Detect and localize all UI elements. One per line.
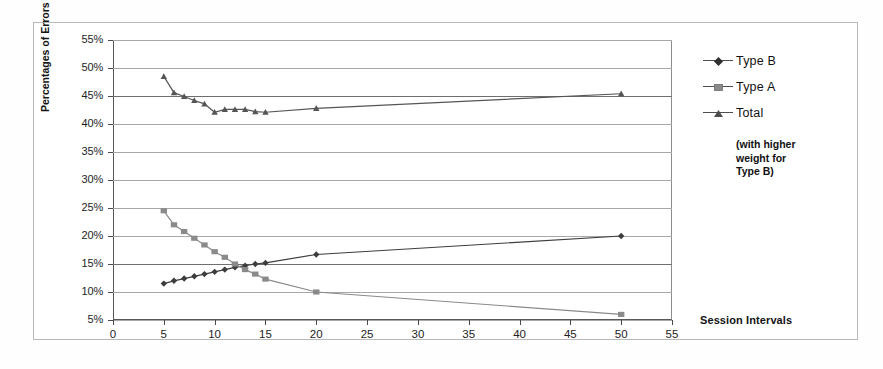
- legend-note-line-3: Type B): [736, 165, 853, 179]
- y-tick-label: 55%: [57, 33, 103, 45]
- y-tick-label: 40%: [57, 117, 103, 129]
- data-point-triangle: [171, 89, 177, 95]
- series-line: [164, 76, 621, 112]
- data-point-diamond: [313, 251, 319, 257]
- x-tick-mark: [316, 320, 317, 325]
- x-tick-mark: [520, 320, 521, 325]
- data-point-square: [201, 242, 207, 247]
- series-total: [161, 73, 625, 115]
- plot-area: 5%10%15%20%25%30%35%40%45%50%55% 0510152…: [113, 40, 672, 320]
- data-point-diamond: [201, 271, 207, 277]
- data-point-square: [211, 249, 217, 254]
- x-tick-label: 50: [615, 328, 628, 340]
- square-marker-icon: [703, 81, 733, 93]
- x-tick-label: 25: [361, 328, 374, 340]
- y-tick-label: 10%: [57, 285, 103, 297]
- x-tick-label: 5: [161, 328, 167, 340]
- series-layer: [113, 40, 672, 320]
- x-tick-mark: [215, 320, 216, 325]
- x-tick-mark: [570, 320, 571, 325]
- legend-label-total: Total: [736, 106, 763, 120]
- data-point-diamond: [161, 280, 167, 286]
- x-tick-mark: [418, 320, 419, 325]
- x-tick-mark: [469, 320, 470, 325]
- data-point-diamond: [618, 233, 624, 239]
- legend-note-line-1: (with higher: [736, 138, 853, 152]
- data-point-diamond: [262, 260, 268, 266]
- x-tick-label: 35: [462, 328, 475, 340]
- legend-item-type-b[interactable]: Type B: [703, 48, 853, 74]
- data-point-square: [242, 267, 248, 272]
- data-point-diamond: [191, 273, 197, 279]
- legend-label-type-a: Type A: [736, 80, 775, 94]
- data-point-square: [161, 208, 167, 213]
- data-point-square: [313, 289, 319, 294]
- data-point-diamond: [211, 269, 217, 275]
- x-tick-label: 0: [110, 328, 116, 340]
- y-tick-label: 35%: [57, 145, 103, 157]
- diamond-marker-icon: [703, 55, 733, 67]
- x-tick-label: 20: [310, 328, 323, 340]
- data-point-square: [171, 222, 177, 227]
- x-tick-mark: [621, 320, 622, 325]
- data-point-square: [181, 229, 187, 234]
- chart-figure: Percentages of Errors Session Intervals …: [0, 0, 883, 369]
- x-tick-mark: [164, 320, 165, 325]
- x-tick-label: 45: [564, 328, 577, 340]
- legend-item-type-a[interactable]: Type A: [703, 74, 853, 100]
- legend-note-line-2: weight for: [736, 152, 853, 166]
- y-tick-label: 30%: [57, 173, 103, 185]
- data-point-diamond: [252, 261, 258, 267]
- data-point-square: [262, 277, 268, 282]
- y-tick-label: 25%: [57, 201, 103, 213]
- data-point-diamond: [181, 275, 187, 281]
- data-point-square: [191, 236, 197, 241]
- x-axis-title: Session Intervals: [700, 314, 792, 326]
- data-point-square: [232, 261, 238, 266]
- series-type-a: [161, 208, 625, 317]
- triangle-marker-icon: [703, 107, 733, 119]
- legend-label-type-b: Type B: [736, 54, 776, 68]
- y-axis-title: Percentages of Errors: [39, 2, 51, 112]
- legend-item-total[interactable]: Total: [703, 100, 853, 126]
- x-tick-mark: [672, 320, 673, 325]
- legend: Type B Type A Total (with higher weight …: [703, 48, 853, 179]
- gridline: [113, 320, 672, 321]
- data-point-triangle: [161, 73, 167, 79]
- x-tick-mark: [265, 320, 266, 325]
- data-point-diamond: [222, 266, 228, 272]
- data-point-square: [252, 272, 258, 277]
- legend-note: (with higher weight for Type B): [736, 138, 853, 179]
- x-tick-mark: [367, 320, 368, 325]
- x-tick-label: 15: [259, 328, 272, 340]
- y-tick-label: 15%: [57, 257, 103, 269]
- y-tick-label: 45%: [57, 89, 103, 101]
- y-tick-label: 5%: [57, 313, 103, 325]
- x-tick-label: 30: [412, 328, 425, 340]
- series-type-b: [161, 233, 625, 287]
- series-line: [164, 236, 621, 284]
- x-tick-label: 10: [208, 328, 221, 340]
- y-tick-label: 50%: [57, 61, 103, 73]
- x-tick-label: 40: [513, 328, 526, 340]
- x-tick-label: 55: [666, 328, 679, 340]
- y-tick-label: 20%: [57, 229, 103, 241]
- data-point-diamond: [171, 278, 177, 284]
- data-point-square: [222, 255, 228, 260]
- data-point-square: [618, 312, 624, 317]
- x-tick-mark: [113, 320, 114, 325]
